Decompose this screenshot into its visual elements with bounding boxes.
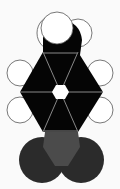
diagram-canvas xyxy=(0,0,120,189)
top-white-sphere xyxy=(41,12,73,44)
